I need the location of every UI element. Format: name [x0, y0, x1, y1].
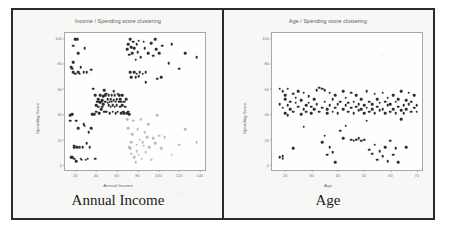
data-point	[77, 52, 80, 55]
data-point	[329, 91, 332, 94]
data-point	[329, 146, 332, 149]
data-point	[384, 100, 387, 103]
data-point	[397, 161, 400, 164]
data-point	[92, 88, 95, 91]
data-point	[318, 110, 321, 113]
data-point	[300, 99, 303, 102]
data-point	[415, 104, 418, 107]
data-point	[381, 155, 384, 158]
data-point	[402, 104, 405, 107]
data-point	[331, 151, 334, 154]
y-axis-label-age: Spending Score	[242, 103, 247, 134]
x-axis-label-income: Annual Income	[13, 183, 223, 188]
data-point	[334, 107, 337, 110]
data-point	[365, 107, 368, 110]
data-point	[150, 42, 153, 45]
x-tick-label: 20	[283, 173, 287, 178]
data-point	[279, 103, 282, 106]
data-point	[323, 100, 326, 103]
data-point	[344, 104, 347, 107]
data-point	[148, 146, 151, 149]
data-point	[392, 153, 395, 156]
data-point	[281, 155, 284, 158]
data-point	[146, 136, 149, 139]
data-point	[129, 38, 132, 41]
data-point	[371, 103, 374, 106]
data-point	[69, 119, 72, 122]
data-point	[286, 104, 289, 107]
data-point	[135, 143, 138, 146]
data-point	[373, 93, 376, 96]
data-point	[342, 137, 345, 140]
x-tick-label: 60	[115, 173, 119, 178]
data-point	[139, 56, 142, 59]
data-point	[297, 90, 300, 93]
y-tick-label: 100	[262, 36, 269, 41]
data-point	[156, 114, 159, 117]
data-point	[360, 108, 363, 111]
data-point	[138, 138, 141, 141]
data-point	[389, 140, 392, 143]
data-point	[135, 43, 138, 46]
y-tick-label: 60	[58, 86, 62, 91]
data-point	[329, 104, 332, 107]
data-point	[72, 61, 75, 64]
data-point	[326, 108, 329, 111]
data-point	[363, 138, 366, 141]
data-point	[365, 119, 368, 122]
data-point	[130, 152, 133, 155]
data-point	[397, 98, 400, 101]
data-point	[294, 96, 297, 99]
data-point	[88, 131, 91, 134]
data-point	[313, 108, 316, 111]
x-tick-label: 70	[415, 173, 419, 178]
data-point	[178, 67, 181, 70]
data-point	[87, 157, 90, 160]
data-point	[342, 108, 345, 111]
data-point	[154, 38, 157, 41]
x-tick-label: 50	[362, 173, 366, 178]
data-point	[297, 105, 300, 108]
x-tick-label: 80	[135, 173, 139, 178]
data-point	[344, 124, 347, 127]
data-point	[331, 98, 334, 101]
data-point	[331, 110, 334, 113]
data-point	[408, 103, 411, 106]
data-point	[129, 147, 132, 150]
data-point	[281, 107, 284, 110]
data-point	[358, 103, 361, 106]
x-tick-label: 60	[388, 173, 392, 178]
y-tick-label: 100	[55, 36, 62, 41]
data-point	[184, 128, 187, 131]
chart-title-income: Income / Spending score clustering	[13, 18, 223, 24]
data-point	[313, 98, 316, 101]
data-point	[163, 136, 166, 139]
data-point	[400, 90, 403, 93]
data-point	[376, 105, 379, 108]
data-point	[137, 153, 140, 156]
x-tick-label: 40	[336, 173, 340, 178]
data-point	[339, 129, 342, 132]
data-point	[195, 141, 198, 144]
data-point	[284, 94, 287, 97]
data-point	[326, 153, 329, 156]
data-point	[132, 41, 135, 44]
data-point	[126, 48, 129, 51]
data-point	[126, 118, 129, 121]
data-point	[83, 124, 86, 127]
axes-income: 02040608010020406080100120140	[64, 32, 206, 171]
data-point	[135, 150, 138, 153]
data-point	[315, 103, 318, 106]
y-tick-label: 60	[265, 86, 269, 91]
data-point	[80, 159, 83, 162]
data-point	[147, 123, 150, 126]
data-point	[392, 108, 395, 111]
y-tick-label: 20	[265, 137, 269, 142]
data-point	[400, 118, 403, 121]
data-point	[123, 100, 126, 103]
data-point	[292, 93, 295, 96]
data-point	[71, 113, 74, 116]
data-point	[302, 91, 305, 94]
y-tick-label: 0	[60, 162, 62, 167]
data-point	[93, 113, 96, 116]
